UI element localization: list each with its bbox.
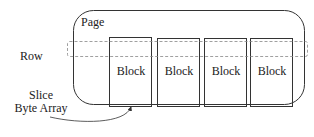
page-label: Page xyxy=(81,16,104,29)
block-label: Block xyxy=(258,64,287,79)
block-1: Block xyxy=(110,37,152,106)
block-label: Block xyxy=(212,64,241,79)
slice-label-line2: Byte Array xyxy=(10,102,72,115)
block-3: Block xyxy=(205,37,247,106)
block-label: Block xyxy=(165,64,194,79)
row-label: Row xyxy=(20,50,43,63)
slice-label: Slice Byte Array xyxy=(10,89,72,115)
block-label: Block xyxy=(117,64,146,79)
block-2: Block xyxy=(158,37,200,106)
block-4: Block xyxy=(251,37,293,106)
